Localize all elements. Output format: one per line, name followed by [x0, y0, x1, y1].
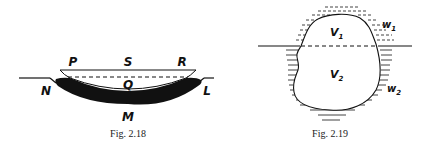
label-w1-sub: 1	[391, 25, 396, 33]
label-v1-sub: 1	[339, 33, 344, 41]
label-l: L	[203, 84, 211, 98]
label-w1: w1	[382, 19, 396, 33]
label-w2-sub: 2	[396, 89, 401, 97]
figure-2-18: P S R Q N L M Fig. 2.18	[19, 55, 214, 139]
diagram-canvas: P S R Q N L M Fig. 2.18	[0, 0, 427, 147]
label-p: P	[69, 55, 78, 69]
caption-fig-2-18: Fig. 2.18	[110, 128, 146, 139]
label-w2: w2	[387, 83, 401, 97]
ground-slope-left	[50, 78, 56, 83]
label-m: M	[122, 110, 134, 124]
label-s: S	[124, 55, 133, 69]
label-n: N	[41, 84, 51, 98]
label-r: R	[177, 55, 186, 69]
figure-2-19: V1 V2 w1 w2 Fig. 2.19	[258, 7, 412, 139]
caption-fig-2-19: Fig. 2.19	[312, 128, 348, 139]
label-q: Q	[123, 78, 133, 92]
label-v2-sub: 2	[339, 75, 344, 83]
